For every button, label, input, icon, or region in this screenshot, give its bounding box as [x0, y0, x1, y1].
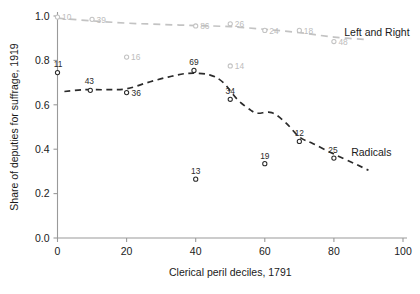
- data-point-marker: [194, 177, 198, 181]
- data-point-label: 16: [131, 52, 141, 62]
- data-point-marker: [228, 97, 232, 101]
- data-point-label: 13: [191, 166, 201, 176]
- data-point-label: 36: [132, 88, 142, 98]
- x-tick-label: 60: [259, 245, 271, 257]
- x-tick-label: 80: [328, 245, 340, 257]
- data-point-marker: [297, 28, 301, 32]
- data-point-label: 11: [54, 59, 63, 69]
- series-label: Left and Right: [344, 26, 409, 38]
- data-point-marker: [263, 28, 267, 32]
- data-point-marker: [297, 139, 301, 143]
- data-point-marker: [55, 71, 59, 75]
- axis-titles: Clerical peril deciles, 1791Share of dep…: [8, 43, 292, 278]
- series-label: Radicals: [351, 146, 391, 158]
- data-point-marker: [90, 17, 94, 21]
- data-point-label: 18: [304, 26, 314, 36]
- data-point-marker: [263, 162, 267, 166]
- data-point-label: 34: [226, 86, 236, 96]
- y-tick-label: 0.4: [35, 143, 50, 155]
- x-tick-label: 20: [121, 245, 133, 257]
- x-axis-title: Clerical peril deciles, 1791: [169, 266, 292, 278]
- data-point-label: 10: [62, 12, 72, 22]
- data-point-marker: [192, 68, 196, 72]
- data-point-label: 19: [260, 151, 270, 161]
- y-tick-label: 0.0: [35, 232, 50, 244]
- data-point-marker: [332, 156, 336, 160]
- data-point-label: 14: [235, 61, 245, 71]
- y-tick-label: 0.2: [35, 187, 50, 199]
- data-point-label: 48: [338, 37, 348, 47]
- x-tick-label: 0: [55, 245, 61, 257]
- data-point-label: 86: [200, 21, 210, 31]
- data-point-marker: [88, 88, 92, 92]
- y-axis-title: Share of deputies for suffrage, 1919: [8, 43, 20, 210]
- data-point-label: 24: [269, 26, 279, 36]
- data-point-label: 26: [235, 19, 245, 29]
- y-tick-label: 0.8: [35, 54, 50, 66]
- y-tick-label: 0.6: [35, 99, 50, 111]
- data-point-label: 39: [97, 15, 107, 25]
- trend-line: [64, 73, 368, 170]
- data-point-marker: [125, 55, 129, 59]
- x-tick-label: 100: [394, 245, 412, 257]
- axes: 0.00.20.40.60.81.0020406080100: [35, 10, 412, 257]
- x-tick-label: 40: [190, 245, 202, 257]
- data-point-marker: [228, 22, 232, 26]
- data-point-label: 25: [328, 145, 338, 155]
- series-radicals: 114336691334191225Radicals: [54, 57, 392, 181]
- y-tick-label: 1.0: [35, 10, 50, 22]
- data-point-label: 12: [295, 128, 305, 138]
- data-point-marker: [228, 64, 232, 68]
- data-point-marker: [332, 39, 336, 43]
- data-point-label: 69: [189, 57, 199, 67]
- series-left-and-right: 103916862614241848Left and Right: [55, 12, 409, 71]
- data-series: 103916862614241848Left and Right11433669…: [54, 12, 410, 181]
- data-point-marker: [194, 24, 198, 28]
- data-point-label: 43: [85, 76, 95, 86]
- data-point-marker: [125, 90, 129, 94]
- scatter-plot: 0.00.20.40.60.81.0020406080100 103916862…: [0, 0, 420, 294]
- chart-figure: 0.00.20.40.60.81.0020406080100 103916862…: [0, 0, 420, 294]
- data-point-marker: [55, 15, 59, 19]
